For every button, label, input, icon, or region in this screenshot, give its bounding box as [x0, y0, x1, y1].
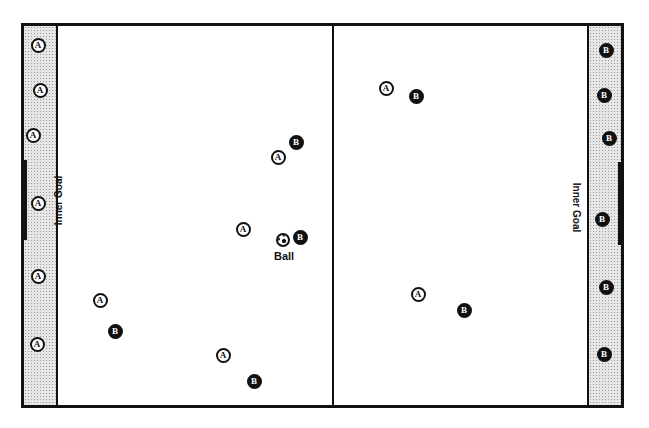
center-line — [332, 26, 334, 405]
ball-icon — [276, 233, 290, 247]
team-b-player-icon: B — [293, 230, 308, 245]
team-b-player-icon: B — [595, 212, 610, 227]
team-a-player-icon: A — [271, 150, 286, 165]
playing-field — [21, 23, 624, 408]
team-b-player-icon: B — [602, 131, 617, 146]
team-a-player-icon: A — [26, 128, 41, 143]
team-a-player-icon: A — [31, 269, 46, 284]
team-a-player-icon: A — [236, 222, 251, 237]
team-b-player-icon: B — [108, 324, 123, 339]
left-inner-goal-label: Inner Goal — [53, 176, 64, 225]
left-goal-bar — [21, 160, 27, 240]
right-goal-bar — [618, 162, 624, 245]
team-a-player-icon: A — [216, 348, 231, 363]
team-a-player-icon: A — [31, 196, 46, 211]
team-b-player-icon: B — [457, 303, 472, 318]
team-a-player-icon: A — [30, 337, 45, 352]
team-b-player-icon: B — [597, 347, 612, 362]
ball-label: Ball — [274, 250, 294, 262]
team-b-player-icon: B — [247, 374, 262, 389]
team-b-player-icon: B — [597, 88, 612, 103]
team-b-player-icon: B — [409, 89, 424, 104]
right-inner-goal-label: Inner Goal — [571, 183, 582, 232]
team-a-player-icon: A — [31, 38, 46, 53]
team-b-player-icon: B — [599, 280, 614, 295]
team-b-player-icon: B — [599, 43, 614, 58]
team-a-player-icon: A — [33, 83, 48, 98]
team-a-player-icon: A — [379, 81, 394, 96]
team-b-player-icon: B — [289, 135, 304, 150]
team-a-player-icon: A — [411, 287, 426, 302]
team-a-player-icon: A — [93, 293, 108, 308]
